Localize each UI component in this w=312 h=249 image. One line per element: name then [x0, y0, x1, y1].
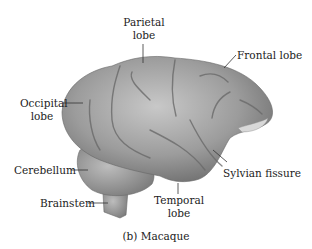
sylvian-fissure-label: Sylvian fissure	[223, 167, 301, 180]
temporal-label-line2: lobe	[154, 207, 204, 220]
cerebellum-label: Cerebellum	[14, 164, 76, 177]
brainstem-label: Brainstem	[40, 197, 95, 210]
occipital-lobe-label: Occipital lobe	[20, 97, 64, 123]
parietal-label-line1: Parietal	[122, 16, 166, 29]
temporal-lobe-label: Temporal lobe	[154, 194, 204, 220]
parietal-label-line2: lobe	[122, 29, 166, 42]
occipital-label-line1: Occipital	[20, 97, 64, 110]
parietal-lobe-label: Parietal lobe	[122, 16, 166, 42]
occipital-label-line2: lobe	[20, 110, 64, 123]
temporal-label-line1: Temporal	[154, 194, 204, 207]
figure-caption: (b) Macaque	[0, 230, 312, 243]
frontal-lobe-label: Frontal lobe	[237, 49, 302, 62]
